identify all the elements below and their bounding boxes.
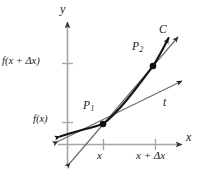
y-axis-label: y [60,3,65,15]
y-tick-label-f-x: f(x) [33,114,48,125]
tangent-label-t: t [163,97,166,109]
point-label-p1-subscript: 1 [90,104,94,113]
figure-canvas [0,0,202,170]
x-tick-label-x: x [97,150,102,161]
point-label-p1-base: P [83,99,90,111]
y-tick-label-f-x-plus-delta-x: f(x + Δx) [2,56,40,67]
x-tick-label-x-plus-delta-x: x + Δx [136,150,165,161]
point-label-p2: P2 [132,41,143,54]
calculus-secant-tangent-figure: y x f(x + Δx) f(x) x x + Δx P1 P2 C t [0,0,202,170]
point-p2-marker [150,63,157,70]
curve-c [60,38,169,137]
point-label-p2-subscript: 2 [139,45,143,54]
point-label-p2-base: P [132,40,139,52]
curve-label-c: C [159,24,167,36]
point-p1-marker [100,121,107,128]
x-axis-label: x [186,131,191,143]
point-label-p1: P1 [83,100,94,113]
